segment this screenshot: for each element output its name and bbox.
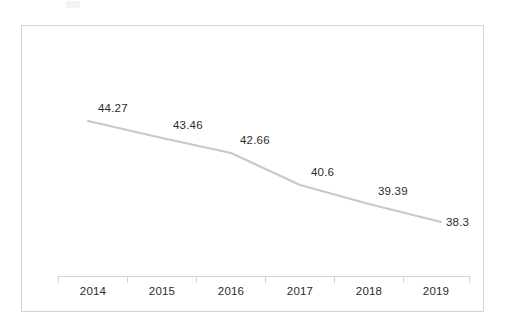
data-label-2019: 38.3 <box>446 216 469 228</box>
x-tick-label-2014: 2014 <box>63 285 123 297</box>
x-tick-label-2018: 2018 <box>339 285 399 297</box>
data-label-2018: 39.39 <box>378 185 408 197</box>
line-chart-figure: 44.27 43.46 42.66 40.6 39.39 38.3 2014 2… <box>0 0 506 332</box>
x-tick-label-2015: 2015 <box>132 285 192 297</box>
chart-plot-frame <box>21 25 484 312</box>
data-label-2017: 40.6 <box>311 166 334 178</box>
data-label-2015: 43.46 <box>173 119 203 131</box>
scan-artifact-mark <box>66 1 80 8</box>
data-label-2016: 42.66 <box>240 134 270 146</box>
x-tick-label-2019: 2019 <box>406 285 466 297</box>
x-tick-label-2017: 2017 <box>270 285 330 297</box>
x-tick-label-2016: 2016 <box>201 285 261 297</box>
data-label-2014: 44.27 <box>98 102 128 114</box>
